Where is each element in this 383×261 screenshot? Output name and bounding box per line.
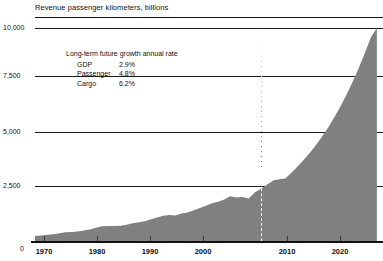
xtick-label-2020: 2020 <box>332 247 349 256</box>
xtick-mark-2020 <box>340 236 341 241</box>
chart-figure: Revenue passenger kilometers, billions 1… <box>0 0 383 261</box>
annotation-row-cargo: Cargo6.2% <box>66 79 178 89</box>
xtick-label-1990: 1990 <box>142 247 159 256</box>
xtick-label-2000: 2000 <box>195 247 212 256</box>
xtick-mark-2000 <box>203 236 204 241</box>
annotation-row-passenger: Passenger4.8% <box>66 69 178 79</box>
annotation-value-cargo: 6.2% <box>119 79 135 89</box>
annotation-label-gdp: GDP <box>77 60 119 70</box>
xtick-mark-1990 <box>150 236 151 241</box>
annotation-title: Long-term future growth annual rate <box>66 49 178 59</box>
growth-rate-annotation: Long-term future growth annual rate GDP2… <box>66 49 178 88</box>
forecast-divider <box>261 24 262 241</box>
xtick-mark-2010 <box>287 236 288 241</box>
area-series <box>0 0 383 261</box>
annotation-value-gdp: 2.9% <box>119 60 135 70</box>
annotation-label-cargo: Cargo <box>77 79 119 89</box>
xtick-label-1980: 1980 <box>89 247 106 256</box>
xtick-label-2010: 2010 <box>279 247 296 256</box>
xtick-label-1970: 1970 <box>36 247 53 256</box>
x-axis-line <box>31 241 383 243</box>
annotation-value-passenger: 4.8% <box>119 69 135 79</box>
annotation-row-gdp: GDP2.9% <box>66 60 178 70</box>
xtick-mark-1970 <box>44 236 45 241</box>
annotation-label-passenger: Passenger <box>77 69 119 79</box>
xtick-mark-1980 <box>97 236 98 241</box>
